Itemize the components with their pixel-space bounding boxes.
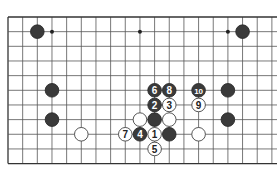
black-stone — [221, 113, 235, 127]
star-point — [50, 30, 54, 34]
move-number: 5 — [152, 144, 158, 155]
white-stone — [75, 127, 89, 141]
black-stone — [31, 25, 45, 39]
black-stone — [45, 84, 59, 98]
move-number: 4 — [137, 129, 143, 140]
white-stone — [192, 127, 206, 141]
move-number: 2 — [152, 100, 158, 111]
black-stone — [148, 113, 162, 127]
move-number: 9 — [196, 100, 202, 111]
move-number: 6 — [152, 85, 158, 96]
go-board: 68237415109 — [0, 0, 277, 180]
white-stone — [133, 113, 147, 127]
black-stone — [45, 113, 59, 127]
move-number: 7 — [122, 129, 128, 140]
move-number: 3 — [166, 100, 172, 111]
star-point — [226, 30, 230, 34]
white-stone — [162, 113, 176, 127]
black-stone — [236, 25, 250, 39]
move-number: 10 — [194, 87, 203, 96]
black-stone — [221, 84, 235, 98]
move-number: 8 — [166, 85, 172, 96]
move-number: 1 — [152, 129, 158, 140]
star-point — [138, 30, 142, 34]
black-stone — [162, 127, 176, 141]
